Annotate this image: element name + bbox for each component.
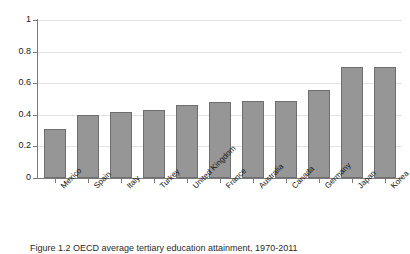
x-axis-tick-label: Italy	[125, 184, 131, 190]
x-axis-tick-label: Australia	[257, 184, 263, 190]
x-axis-tick-label: Korea	[389, 184, 395, 190]
figure-caption: Figure 1.2 OECD average tertiary educati…	[30, 243, 390, 254]
y-axis-tick-label: 1	[1, 15, 31, 24]
x-axis-tick-mark	[385, 179, 386, 183]
y-axis-tick-mark	[33, 178, 37, 179]
bar	[110, 112, 132, 178]
x-axis-tick-label: Turkey	[158, 184, 164, 190]
x-axis-tick-label: Canada	[290, 184, 296, 190]
y-axis-tick-label: 0.2	[1, 141, 31, 150]
y-axis-tick-labels: 00.20.40.60.81	[0, 0, 31, 251]
y-axis-tick-label: 0.6	[1, 78, 31, 87]
bar	[44, 129, 66, 178]
x-axis-tick-label: United Kingdom	[191, 184, 197, 190]
y-axis-tick-mark	[33, 20, 37, 21]
x-axis-tick-mark	[154, 179, 155, 183]
x-axis-tick-label: Mexico	[59, 184, 65, 190]
bar	[308, 90, 330, 178]
y-axis-tick-label: 0.4	[1, 110, 31, 119]
y-axis-line	[37, 19, 38, 179]
x-axis-tick-mark	[88, 179, 89, 183]
y-axis-tick-label: 0	[1, 173, 31, 182]
gridline	[38, 20, 402, 21]
bar	[176, 105, 198, 178]
y-axis-tick-mark	[33, 146, 37, 147]
x-axis-tick-label: Spain	[92, 184, 98, 190]
x-axis-tick-mark	[253, 179, 254, 183]
x-axis-tick-label: Germany	[323, 184, 329, 190]
bar	[77, 115, 99, 178]
y-axis-tick-mark	[33, 83, 37, 84]
y-axis-tick-label: 0.8	[1, 47, 31, 56]
gridline	[38, 52, 402, 53]
bar	[242, 101, 264, 178]
x-axis-tick-mark	[286, 179, 287, 183]
y-axis-tick-mark	[33, 52, 37, 53]
x-axis-tick-mark	[187, 179, 188, 183]
y-axis-tick-mark	[33, 115, 37, 116]
x-axis-tick-mark	[220, 179, 221, 183]
x-axis-tick-label: Japan	[356, 184, 362, 190]
x-axis-tick-mark	[55, 179, 56, 183]
x-axis-tick-mark	[121, 179, 122, 183]
x-axis-tick-mark	[319, 179, 320, 183]
x-axis-tick-mark	[352, 179, 353, 183]
bar	[374, 67, 396, 178]
bar	[143, 110, 165, 178]
x-axis-tick-label: France	[224, 184, 230, 190]
